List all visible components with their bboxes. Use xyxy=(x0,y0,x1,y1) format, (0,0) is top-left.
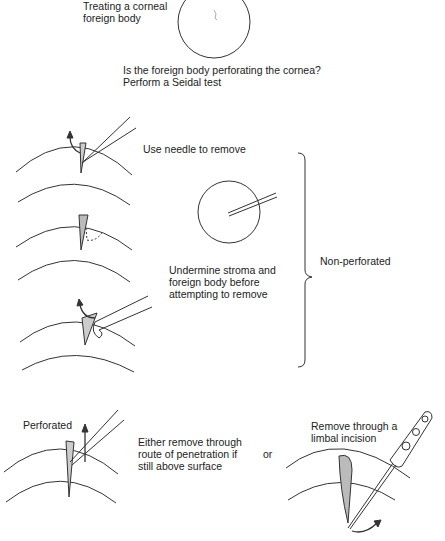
route-step-label: Either remove through route of penetrati… xyxy=(138,436,242,472)
perforated-label: Perforated xyxy=(23,419,72,431)
cornea-circle-needle xyxy=(198,181,260,243)
foreign-body-5 xyxy=(339,455,352,523)
rotate-arrow-5 xyxy=(352,523,377,532)
needle-1 xyxy=(82,117,136,163)
needle-step-label: Use needle to remove xyxy=(143,143,246,155)
needle-4 xyxy=(70,410,124,465)
arrow-head-3 xyxy=(77,299,83,306)
limbal-step-label: Remove through a limbal incision xyxy=(311,420,397,444)
cornea-arc-3-inner xyxy=(22,355,134,372)
bracket xyxy=(298,153,312,367)
spatula-hole-2 xyxy=(413,429,420,436)
spatula-hole-1 xyxy=(422,416,428,422)
cornea-arc-2-inner xyxy=(18,260,130,282)
cornea-arc-4-inner xyxy=(6,481,116,503)
cornea-arc-3-outer xyxy=(20,322,135,346)
cornea-arc-1-inner xyxy=(18,184,130,205)
cornea-arc-4-outer xyxy=(4,449,118,474)
cornea-circle-top xyxy=(178,0,250,58)
title-label: Treating a corneal foreign body xyxy=(83,0,167,24)
cornea-arc-1-outer xyxy=(16,147,132,175)
question-label: Is the foreign body perforating the corn… xyxy=(123,64,321,88)
foreign-body-speck xyxy=(214,10,217,20)
arrow-head-5 xyxy=(374,520,381,527)
up-arrow-head-4 xyxy=(82,424,88,432)
undermine-step-label: Undermine stroma and foreign body before… xyxy=(169,264,276,300)
foreign-body-4 xyxy=(66,441,74,497)
spatula-hole-3 xyxy=(402,442,410,450)
arrow-head-1 xyxy=(67,131,73,138)
cornea-arc-2-outer xyxy=(16,227,132,250)
or-label: or xyxy=(263,448,272,460)
rotate-arrow-1 xyxy=(70,137,80,153)
needle-small xyxy=(228,193,277,216)
spatula-3 xyxy=(93,296,152,338)
non-perforated-label: Non-perforated xyxy=(320,255,391,267)
foreign-body-1 xyxy=(80,143,86,173)
